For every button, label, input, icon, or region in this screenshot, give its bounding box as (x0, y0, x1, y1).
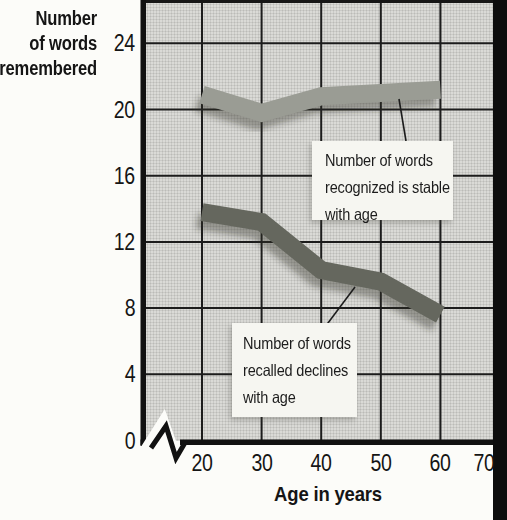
x-tick-label: 30 (251, 452, 272, 475)
y-tick-label: 16 (114, 164, 135, 187)
callout-recalled-line: recalled declines (243, 357, 343, 384)
y-axis-title: Number of words remembered (0, 6, 97, 81)
y-axis-line (141, 0, 147, 446)
x-axis-line (180, 440, 497, 446)
callout-recalled: Number of words recalled declines with a… (232, 323, 357, 417)
x-tick-label: 50 (370, 452, 391, 475)
y-tick-label: 4 (125, 363, 135, 386)
x-tick-label: 40 (311, 452, 332, 475)
y-axis-title-line: Number (0, 6, 97, 31)
y-tick-label: 8 (125, 297, 135, 320)
x-tick-label: 20 (192, 452, 213, 475)
y-tick-label: 20 (114, 98, 135, 121)
y-tick-label: 24 (114, 32, 135, 55)
y-tick-label: 0 (125, 429, 135, 452)
y-axis-title-line: of words (0, 31, 97, 56)
callout-recalled-line: with age (243, 384, 343, 411)
x-tick-label: 70 (474, 452, 495, 475)
callout-recognized-line: recognized is stable (325, 174, 438, 201)
scan-edge-bar (493, 0, 507, 520)
leader-line-recalled (325, 287, 355, 327)
x-tick-label: 60 (430, 452, 451, 475)
y-axis-title-line: remembered (0, 56, 97, 81)
callout-recognized-line: with age (325, 201, 438, 228)
callout-recognized: Number of words recognized is stable wit… (312, 141, 453, 220)
y-tick-label: 12 (114, 230, 135, 253)
callout-recognized-line: Number of words (325, 147, 438, 174)
x-axis-title: Age in years (274, 482, 382, 506)
callout-recalled-line: Number of words (243, 330, 343, 357)
